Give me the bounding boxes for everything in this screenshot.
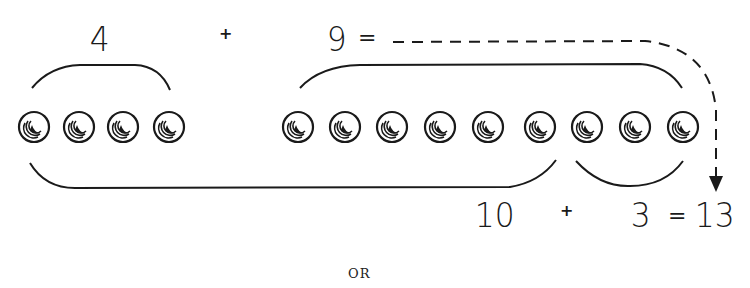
bottom-addend-1: 10 bbox=[475, 198, 515, 232]
bead-group-left bbox=[19, 112, 184, 142]
arrow-head-icon bbox=[709, 176, 723, 192]
bottom-plus-sign: + bbox=[560, 203, 573, 219]
bead-icon bbox=[572, 112, 602, 142]
or-separator: OR bbox=[348, 266, 370, 281]
bead-icon bbox=[283, 112, 313, 142]
bottom-equals-sign: = bbox=[668, 205, 686, 227]
bead-icon bbox=[108, 112, 138, 142]
bead-icon bbox=[64, 112, 94, 142]
bracket-top-left-group bbox=[32, 65, 170, 90]
bead-icon bbox=[19, 112, 49, 142]
bottom-sum: 13 bbox=[695, 198, 735, 232]
top-addend-2: 9 bbox=[327, 22, 347, 56]
bracket-bottom-ten bbox=[30, 160, 556, 188]
top-addend-1: 4 bbox=[90, 22, 110, 56]
top-equals-sign: = bbox=[358, 27, 376, 49]
bead-icon bbox=[425, 112, 455, 142]
bead-icon bbox=[377, 112, 407, 142]
bottom-addend-2: 3 bbox=[631, 198, 651, 232]
bead-icon bbox=[525, 112, 555, 142]
bead-icon bbox=[154, 112, 184, 142]
bracket-bottom-three bbox=[576, 161, 683, 186]
bead-icon bbox=[668, 112, 698, 142]
dashed-arrow-path bbox=[393, 41, 716, 178]
bead-icon bbox=[330, 112, 360, 142]
bead-icon bbox=[620, 112, 650, 142]
bead-icon bbox=[473, 112, 503, 142]
bead-group-right bbox=[283, 112, 698, 142]
bracket-top-right-group bbox=[300, 64, 682, 88]
top-plus-sign: + bbox=[219, 26, 232, 42]
